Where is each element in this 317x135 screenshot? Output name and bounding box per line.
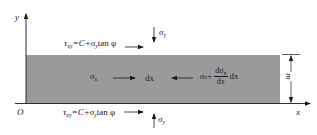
origin-label: O — [17, 108, 24, 117]
bottom-shear-equation: τxy=C+σytan φ — [63, 108, 115, 117]
bottom-normal-label: σy — [158, 115, 165, 124]
x-axis-label: x — [296, 108, 300, 117]
top-normal-label: σy — [159, 28, 166, 37]
left-stress-label: σx — [90, 72, 97, 81]
top-shear-equation: τxy=C+σytan φ — [64, 39, 116, 48]
derivative-fraction: dσx dx — [214, 67, 227, 86]
y-axis-label: y — [15, 13, 19, 22]
thickness-label: m — [284, 72, 293, 81]
element-width-label: dx — [145, 74, 154, 83]
right-stress-expression: σx+ dσx dx dx — [200, 67, 239, 86]
